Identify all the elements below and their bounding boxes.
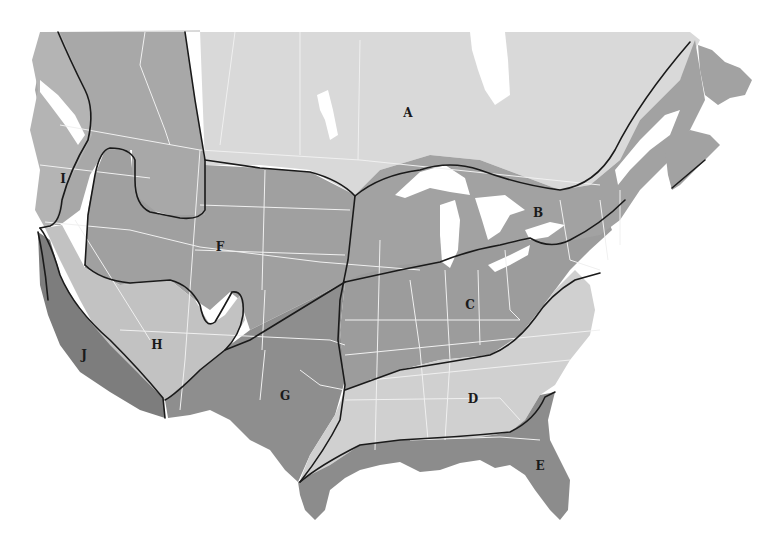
region-label-i: I (60, 173, 66, 185)
region-label-h: H (151, 339, 162, 351)
map-canvas: A B C D E F G H I J (0, 0, 772, 554)
newfoundland (698, 45, 752, 105)
region-label-c: C (465, 299, 475, 311)
region-map (0, 0, 772, 554)
region-label-g: G (280, 390, 290, 402)
region-label-a: A (403, 107, 412, 119)
region-label-e: E (535, 460, 544, 472)
region-label-f: F (216, 241, 225, 253)
region-label-b: B (533, 207, 543, 219)
region-label-d: D (468, 393, 478, 405)
region-label-j: J (81, 349, 87, 361)
